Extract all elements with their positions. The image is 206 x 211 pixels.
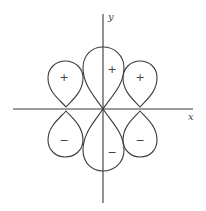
- sign-upper-left: +: [59, 71, 68, 84]
- sign-lower-center: −: [107, 146, 116, 159]
- lobe-upper-left: [48, 61, 83, 107]
- sign-upper-right: +: [135, 71, 144, 84]
- sign-lower-left: −: [59, 134, 68, 147]
- orbital-diagram: + + + − − − y x: [0, 0, 206, 211]
- sign-lower-right: −: [135, 134, 144, 147]
- lobe-upper-right: [123, 61, 157, 107]
- y-axis-label: y: [107, 11, 114, 22]
- x-axis-label: x: [188, 111, 194, 122]
- sign-upper-center: +: [107, 63, 116, 76]
